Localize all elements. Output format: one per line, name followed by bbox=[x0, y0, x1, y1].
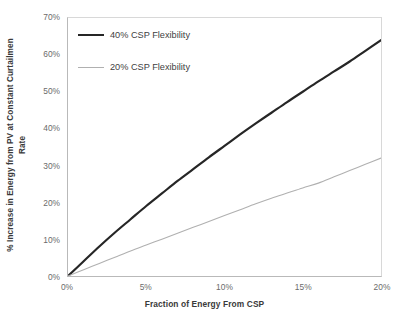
x-axis-tick-label: 0% bbox=[61, 282, 73, 292]
y-axis-tick-label: 20% bbox=[43, 198, 60, 208]
chart-legend: 40% CSP Flexibility 20% CSP Flexibility bbox=[78, 28, 268, 92]
y-axis-tick-label: 30% bbox=[43, 161, 60, 171]
x-axis-tick-label: 20% bbox=[374, 282, 391, 292]
legend-label-series-1: 40% CSP Flexibility bbox=[110, 30, 190, 40]
x-axis-tick-label: 10% bbox=[216, 282, 233, 292]
y-axis-title-line-1: % Increase in Energy from PV at Constant… bbox=[5, 38, 17, 251]
y-axis-tick-labels: 0%10%20%30%40%50%60%70% bbox=[34, 10, 64, 284]
y-axis-tick-label: 0% bbox=[48, 272, 60, 282]
y-axis-tick-label: 40% bbox=[43, 123, 60, 133]
y-axis-tick-label: 60% bbox=[43, 49, 60, 59]
y-axis-tick-label: 50% bbox=[43, 86, 60, 96]
series-line-2 bbox=[68, 158, 381, 276]
legend-entry-20-csp-flexibility: 20% CSP Flexibility bbox=[78, 60, 268, 74]
legend-line-icon-series-1 bbox=[78, 34, 104, 36]
x-axis-title: Fraction of Energy From CSP bbox=[0, 299, 409, 309]
y-axis-title: % Increase in Energy from PV at Constant… bbox=[0, 0, 34, 290]
x-axis-tick-labels: 0%5%10%15%20% bbox=[0, 282, 409, 298]
x-axis-tick-label: 15% bbox=[295, 282, 312, 292]
y-axis-tick-label: 10% bbox=[43, 235, 60, 245]
x-axis-tick-label: 5% bbox=[140, 282, 152, 292]
legend-entry-40-csp-flexibility: 40% CSP Flexibility bbox=[78, 28, 268, 42]
legend-label-series-2: 20% CSP Flexibility bbox=[110, 62, 190, 72]
chart-figure: % Increase in Energy from PV at Constant… bbox=[0, 0, 409, 320]
y-axis-tick-label: 70% bbox=[43, 12, 60, 22]
legend-line-icon-series-2 bbox=[78, 67, 104, 68]
y-axis-title-line-2: Rate bbox=[17, 38, 29, 251]
